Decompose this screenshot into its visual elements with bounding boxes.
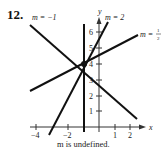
label-m-2: m = 2 [105,13,124,22]
label-m-undefined: m is undefined. [57,139,110,149]
x-axis-label: x [148,123,153,132]
y-axis-label: y [97,7,102,16]
x-tick-label: 2 [128,131,132,140]
intersection-point [81,61,87,67]
label-m-half: m = [140,30,153,39]
label-m-half-den: 2 [157,36,160,41]
figure: 12. x y −4 −2 1 2 1 2 3 [0,0,167,155]
x-tick-label: 1 [113,131,117,140]
y-tick-label: 2 [89,92,93,101]
problem-number: 12. [7,7,23,23]
y-axis-arrow-icon [97,17,102,24]
x-tick-label: −4 [31,131,40,140]
y-tick-label: 1 [89,107,93,116]
y-tick-label: 4 [89,60,93,69]
y-tick-label: 6 [89,28,93,37]
label-m-half-num: 1 [157,28,160,33]
label-m-neg1: m = −1 [32,13,57,22]
slope-chart: x y −4 −2 1 2 1 2 3 4 5 6 [0,0,167,155]
x-axis-arrow-icon [139,125,146,130]
